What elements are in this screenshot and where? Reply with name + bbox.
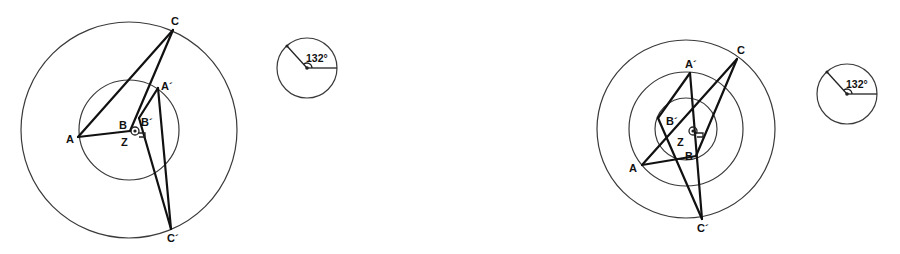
point-label: Z xyxy=(121,136,128,148)
point-label: A´ xyxy=(685,58,697,70)
point-label: A xyxy=(629,162,637,174)
angle-mark-icon xyxy=(696,133,703,137)
concentric-circle xyxy=(21,22,237,238)
angle-center xyxy=(305,66,309,70)
triangle-side xyxy=(696,59,737,156)
point-label: A xyxy=(66,133,74,145)
rotation-diagram: ABCA´B´C´ZABCA´B´C´Z 132°132° xyxy=(0,0,900,254)
point-label: B xyxy=(119,119,127,131)
angle-arm xyxy=(287,46,307,68)
arm-endpoint xyxy=(826,71,829,74)
arm-endpoint xyxy=(286,45,289,48)
angle-value: 132° xyxy=(846,78,868,90)
rotation-center-dot xyxy=(691,129,694,132)
point-label: A´ xyxy=(161,80,173,92)
point-label: C xyxy=(171,15,179,27)
angle-arm xyxy=(827,72,847,94)
angle-value: 132° xyxy=(306,52,328,64)
triangle-side xyxy=(658,73,690,118)
point-label: C´ xyxy=(697,222,709,234)
angle-center xyxy=(845,92,849,96)
concentric-circle xyxy=(629,72,743,186)
rotation-center-dot xyxy=(133,129,136,132)
point-label: B´ xyxy=(666,115,678,127)
rotation-angle-indicator: 132° xyxy=(277,38,337,98)
point-label: C xyxy=(737,44,745,56)
figure-left: ABCA´B´C´Z xyxy=(21,15,237,244)
point-label: C´ xyxy=(167,232,179,244)
point-label: B´ xyxy=(141,116,153,128)
point-label: Z xyxy=(677,136,684,148)
rotation-angle-indicator: 132° xyxy=(817,64,877,124)
figure-right: ABCA´B´C´Z xyxy=(597,40,775,234)
point-label: B xyxy=(685,150,693,162)
